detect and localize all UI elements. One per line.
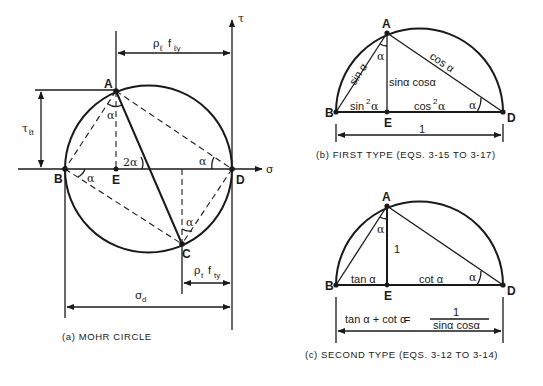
svg-text:=: =	[404, 313, 410, 325]
svg-text:ℓt: ℓt	[28, 128, 35, 137]
label-rho-l-f-ly: ρ ℓ f ℓy	[153, 37, 181, 53]
first-type-diagram: α α sin α cos α sinα cosα sin 2 α cos 2 …	[316, 17, 516, 160]
label-tau-lt: τ ℓt	[22, 122, 35, 137]
label-a: A	[382, 190, 391, 204]
label-b: B	[325, 106, 334, 120]
caption-a: (a) MOHR CIRCLE	[62, 331, 152, 342]
label-one-height: 1	[394, 243, 400, 255]
angle-label-d: α	[199, 155, 207, 168]
point-d	[500, 109, 505, 114]
caption-c: (c) SECOND TYPE (EQS. 3-12 TO 3-14)	[305, 349, 498, 360]
formula-tan-plus-cot: tan α + cot α = 1 sinα cosα	[345, 306, 489, 331]
svg-text:α: α	[438, 100, 446, 113]
point-b	[333, 109, 338, 114]
point-a	[384, 30, 389, 35]
label-d: D	[507, 111, 516, 125]
point-a	[384, 203, 389, 208]
label-a: A	[104, 77, 113, 91]
label-e: E	[384, 289, 392, 303]
point-b	[333, 282, 338, 287]
label-d: D	[507, 284, 516, 298]
svg-text:tan α + cot α: tan α + cot α	[345, 313, 407, 325]
angle-label-c: α	[186, 216, 194, 229]
label-cot-alpha: cot α	[419, 273, 444, 285]
chord-dc	[182, 169, 232, 244]
figure-canvas: σ τ ρ ℓ f ℓy τ ℓt α	[0, 0, 543, 386]
label-d: D	[236, 173, 245, 187]
second-type-diagram: α α 1 tan α cot α A B E D tan α + cot α …	[305, 190, 516, 360]
svg-text:f: f	[168, 37, 172, 49]
label-sin2-alpha: sin 2 α	[350, 97, 379, 113]
label-b: B	[325, 279, 334, 293]
angle-label-2alpha: 2α	[123, 156, 138, 169]
label-e: E	[112, 173, 120, 187]
label-sin-cos: sinα cosα	[389, 76, 437, 88]
label-tan-alpha: tan α	[351, 273, 376, 285]
point-a	[113, 88, 119, 94]
svg-text:ρ: ρ	[153, 37, 159, 50]
angle-arc-a	[380, 217, 387, 219]
point-d	[229, 166, 235, 172]
point-e	[385, 283, 390, 288]
angle-arc-2alpha	[141, 157, 143, 169]
svg-text:ℓy: ℓy	[173, 44, 181, 53]
svg-text:sin: sin	[350, 100, 364, 112]
svg-text:t: t	[201, 271, 204, 280]
angle-label-d: α	[469, 99, 477, 112]
svg-text:cos: cos	[414, 100, 432, 112]
svg-text:1: 1	[453, 306, 459, 318]
label-c: C	[182, 247, 191, 261]
angle-arc-a	[108, 104, 122, 106]
svg-text:d: d	[142, 295, 146, 304]
angle-arc-c	[182, 229, 192, 231]
angle-arc-a	[380, 44, 387, 46]
angle-label-d: α	[469, 271, 477, 284]
svg-text:ty: ty	[214, 271, 220, 280]
mohr-circle-diagram: σ τ ρ ℓ f ℓy τ ℓt α	[18, 12, 274, 342]
point-e	[114, 167, 119, 172]
point-d	[500, 282, 505, 287]
tau-axis-label: τ	[238, 12, 244, 25]
chord-ab	[65, 91, 116, 169]
svg-text:f: f	[208, 264, 212, 276]
sigma-axis-label: σ	[266, 163, 274, 176]
label-one: 1	[419, 123, 425, 135]
chord-bc	[65, 169, 182, 244]
angle-arc-d	[212, 157, 214, 169]
label-sigma-d: σ d	[135, 289, 146, 304]
chord-ad	[387, 206, 503, 285]
angle-label-b: α	[87, 172, 95, 185]
label-a: A	[382, 17, 391, 31]
angle-label-a: α	[377, 223, 385, 236]
angle-label-a: α	[377, 50, 385, 63]
label-b: B	[54, 172, 63, 186]
svg-text:τ: τ	[22, 122, 28, 135]
label-rho-t-f-ty: ρ t f ty	[194, 264, 220, 280]
point-e	[385, 110, 390, 115]
angle-arc-d	[477, 98, 481, 112]
caption-b: (b) FIRST TYPE (EQS. 3-15 TO 3-17)	[316, 149, 496, 160]
angle-label-a: α	[107, 109, 115, 122]
angle-arc-d	[477, 271, 481, 285]
svg-text:sinα cosα: sinα cosα	[433, 319, 481, 331]
angle-arc-b	[78, 169, 85, 177]
label-cos2-alpha: cos 2 α	[414, 97, 446, 113]
svg-text:ℓ: ℓ	[159, 44, 163, 53]
svg-text:ρ: ρ	[194, 264, 200, 277]
label-e: E	[384, 116, 392, 130]
svg-text:α: α	[371, 100, 379, 113]
